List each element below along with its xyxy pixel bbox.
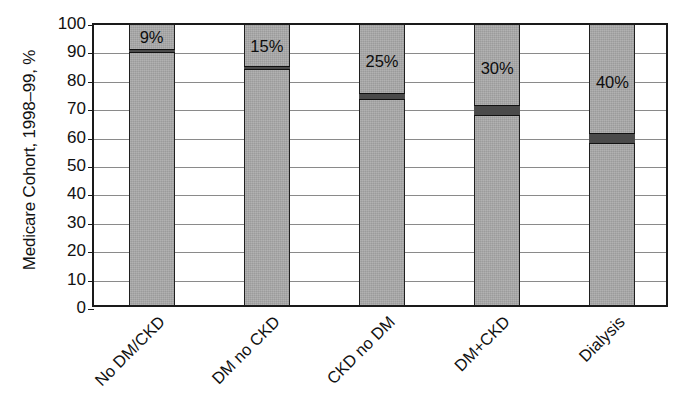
chart-figure: Medicare Cohort, 1998–99, % 010203040506… <box>0 0 683 420</box>
y-axis-tick-mark <box>88 252 94 253</box>
y-axis-tick-label: 20 <box>34 242 86 259</box>
y-axis-tick-mark <box>88 195 94 196</box>
bar-segment-divider <box>589 133 635 144</box>
x-axis-category-label: DM+CKD <box>452 313 513 374</box>
bar-value-label: 9% <box>129 29 175 46</box>
bar-segment-divider <box>359 93 405 100</box>
y-axis-tick-label: 50 <box>34 157 86 174</box>
y-axis-tick-label: 60 <box>34 128 86 145</box>
x-axis-category-label: DM no CKD <box>209 313 283 387</box>
y-axis-tick-label: 40 <box>34 185 86 202</box>
y-axis-tick-label: 30 <box>34 213 86 230</box>
bar-body[interactable] <box>129 25 175 305</box>
y-axis-tick-label: 10 <box>34 270 86 287</box>
bar-segment-divider <box>129 49 175 53</box>
y-axis-tick-mark <box>88 139 94 140</box>
bar-group[interactable]: 25% <box>359 25 405 305</box>
plot-inner: 9%15%25%30%40% <box>94 25 666 305</box>
y-axis-tick-mark <box>88 82 94 83</box>
y-axis-tick-label: 0 <box>34 299 86 316</box>
y-axis-tick-mark <box>88 53 94 54</box>
bar-value-label: 15% <box>244 38 290 55</box>
y-axis-tick-labels: 0102030405060708090100 <box>34 23 86 307</box>
x-axis-category-label: No DM/CKD <box>91 313 167 389</box>
y-axis-tick-label: 70 <box>34 100 86 117</box>
bar-segment-divider <box>474 105 520 116</box>
bar-group[interactable]: 40% <box>589 25 635 305</box>
bar-group[interactable]: 15% <box>244 25 290 305</box>
plot-area: 9%15%25%30%40% <box>92 23 668 307</box>
bar-group[interactable]: 30% <box>474 25 520 305</box>
bar-segment-divider <box>244 66 290 70</box>
y-axis-tick-label: 80 <box>34 71 86 88</box>
y-axis-tick-mark <box>88 25 94 26</box>
x-axis-category-label: CKD no DM <box>324 313 398 387</box>
y-axis-tick-mark <box>88 281 94 282</box>
y-axis-tick-mark <box>88 110 94 111</box>
x-axis-category-label: Dialysis <box>576 313 628 365</box>
bar-body[interactable] <box>589 25 635 305</box>
y-axis-tick-label: 100 <box>34 15 86 32</box>
y-axis-tick-mark <box>88 167 94 168</box>
bar-value-label: 30% <box>474 60 520 77</box>
bar-value-label: 25% <box>359 53 405 70</box>
bar-group[interactable]: 9% <box>129 25 175 305</box>
y-axis-tick-label: 90 <box>34 43 86 60</box>
bar-value-label: 40% <box>589 74 635 91</box>
y-axis-tick-mark <box>88 224 94 225</box>
x-axis-category-labels: No DM/CKDDM no CKDCKD no DMDM+CKDDialysi… <box>92 307 668 420</box>
